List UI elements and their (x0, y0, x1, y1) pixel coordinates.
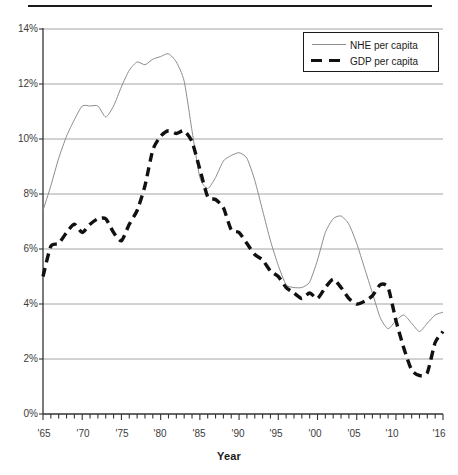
y-tick-label-8: 8% (8, 188, 38, 199)
x-tick-label-1975: '75 (107, 428, 137, 439)
legend-swatch-solid-line-icon (310, 38, 350, 52)
x-axis-title: Year (0, 450, 458, 462)
x-tick-label-1990: '90 (223, 428, 253, 439)
series-line-nhe-per-capita (43, 54, 443, 332)
chart-legend: NHE per capita GDP per capita (303, 32, 439, 72)
y-tick-label-2: 2% (8, 353, 38, 364)
legend-item-nhe: NHE per capita (310, 37, 432, 53)
y-tick-label-4: 4% (8, 298, 38, 309)
y-tick-label-10: 10% (8, 133, 38, 144)
x-tick-label-2000: '00 (300, 428, 330, 439)
x-tick-label-1985: '85 (184, 428, 214, 439)
x-tick-label-1995: '95 (261, 428, 291, 439)
x-tick-label-1965: '65 (29, 428, 59, 439)
x-tick-label-2005: '05 (339, 428, 369, 439)
y-tick-label-14: 14% (8, 23, 38, 34)
legend-item-gdp: GDP per capita (310, 53, 432, 69)
chart-figure: 14% 12% 10% 8% 6% 4% 2% 0% '65 '70 '75 '… (0, 0, 458, 475)
y-tick-label-6: 6% (8, 243, 38, 254)
legend-label-nhe: NHE per capita (350, 40, 418, 51)
x-tick-label-1970: '70 (68, 428, 98, 439)
legend-label-gdp: GDP per capita (350, 56, 418, 67)
legend-swatch-dashed-line-icon (310, 54, 350, 68)
x-tick-label-2016: '16 (424, 428, 454, 439)
x-tick-label-2010: '10 (377, 428, 407, 439)
y-tick-label-12: 12% (8, 78, 38, 89)
x-tick-label-1980: '80 (145, 428, 175, 439)
series-line-gdp-per-capita (43, 131, 443, 376)
y-tick-label-0: 0% (8, 408, 38, 419)
